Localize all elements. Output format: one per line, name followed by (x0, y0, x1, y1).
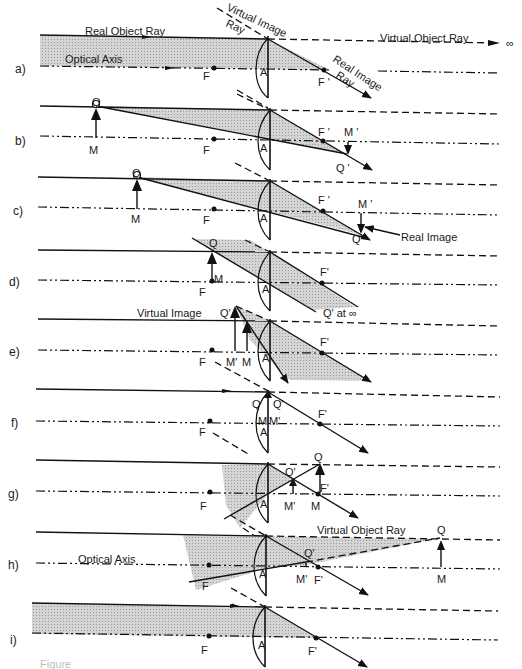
label-g: A (260, 498, 268, 510)
label-c: F ' (318, 194, 330, 206)
virtual-image-ray (237, 94, 270, 110)
panel-g (36, 460, 500, 545)
label-f: F' (318, 408, 327, 420)
virtual-ray (270, 321, 500, 326)
label-g: M (311, 500, 320, 512)
panel-label: f) (11, 416, 18, 430)
label-d: A (262, 283, 270, 295)
label-f: A (260, 426, 268, 438)
virtual-ray (268, 392, 500, 397)
label-h: M' (296, 573, 307, 585)
label-h: F (202, 580, 209, 592)
object-ray (36, 460, 268, 464)
object-ray (36, 389, 268, 392)
label-h: Q' (304, 547, 315, 559)
focal-point-F-prime (320, 281, 325, 286)
figure-caption: Figure (40, 658, 71, 669)
label-c: M (131, 213, 140, 225)
label-c: Q' (352, 233, 363, 245)
virtual-ray (265, 607, 498, 611)
virtual-image-ray (231, 588, 265, 607)
panel-label: g) (8, 487, 19, 501)
ray-bundle-shade (32, 603, 316, 638)
panel-d (38, 238, 500, 312)
panel-c (38, 163, 500, 240)
label-a: Virtual Object Ray (380, 32, 469, 44)
panel-f (36, 389, 500, 455)
label-d: F' (320, 266, 329, 278)
optics-diagram: a) b) c) d) e) f) g) h) i) Real Object R… (0, 0, 522, 669)
label-i: F' (308, 645, 317, 657)
real-image-pointer (365, 227, 400, 235)
label-a: Real Object Ray (85, 25, 166, 37)
label-b: M (89, 144, 98, 156)
label-f: M' (269, 415, 280, 427)
arrow-head-icon (488, 40, 500, 46)
label-b: Q ' (336, 162, 350, 174)
label-h: A (259, 568, 267, 580)
label-g: Q (314, 451, 323, 463)
panel-label: e) (9, 345, 20, 359)
panel-b (40, 94, 500, 170)
label-c: A (260, 212, 268, 224)
label-b: A (260, 142, 268, 154)
label-g: F (200, 500, 207, 512)
panel-label: d) (9, 275, 20, 289)
label-d: M (214, 273, 223, 285)
focal-point-F (207, 563, 212, 568)
label-c: F (203, 214, 210, 226)
label-e: Q' (220, 307, 231, 319)
panel-label: a) (15, 62, 26, 76)
virtual-image-ray (235, 163, 270, 181)
panel-i (32, 588, 498, 667)
panel-labels: a) b) c) d) e) f) g) h) i) (8, 62, 26, 647)
focal-point-F-prime (321, 209, 326, 214)
focal-point-F (212, 207, 217, 212)
label-c: Real Image (401, 231, 457, 243)
label-f: Q (252, 398, 261, 410)
arrow-head-icon (132, 179, 142, 191)
panel-e (38, 306, 500, 392)
label-h: M (437, 573, 446, 585)
label-e: F' (320, 336, 329, 348)
virtual-image-ray (213, 433, 250, 455)
panel-label: i) (10, 633, 17, 647)
label-b: F (203, 144, 210, 156)
focal-point-F (207, 634, 212, 639)
object-ray (36, 532, 266, 536)
focal-point-F (208, 419, 213, 424)
panel-h (36, 515, 500, 616)
label-f: Q' (273, 398, 284, 410)
label-e: Virtual Image (137, 307, 202, 319)
label-b: M ' (344, 126, 358, 138)
label-d: F (199, 286, 206, 298)
panel-label: b) (15, 134, 26, 148)
label-h: Q (437, 524, 446, 536)
focal-point-F (212, 66, 217, 71)
label-f: F (199, 426, 206, 438)
ray-bundle-shade (183, 535, 436, 590)
label-i: F (201, 644, 208, 656)
label-a: Optical Axis (65, 53, 123, 65)
arrow-head-icon (437, 540, 445, 550)
label-h: F' (314, 574, 323, 586)
label-b: F ' (318, 126, 330, 138)
focal-point-F (208, 490, 213, 495)
virtual-ray (270, 252, 500, 256)
label-h: Virtual Object Ray (317, 524, 406, 536)
panel-label: c) (13, 204, 23, 218)
focal-point-F-prime (314, 636, 319, 641)
ray-bundle-shade (222, 464, 292, 528)
label-a: A (260, 66, 268, 78)
label-d: Q (209, 237, 218, 249)
arrow-head-icon (207, 252, 217, 264)
panel-label: h) (8, 558, 19, 572)
focal-point-F-prime (321, 139, 326, 144)
label-g: M' (284, 500, 295, 512)
label-e: F (199, 356, 206, 368)
focal-point-F-prime (320, 351, 325, 356)
virtual-ray (268, 464, 500, 467)
label-h: Optical Axis (78, 553, 136, 565)
label-c: M ' (358, 198, 372, 210)
arrow-head-icon (91, 108, 101, 120)
